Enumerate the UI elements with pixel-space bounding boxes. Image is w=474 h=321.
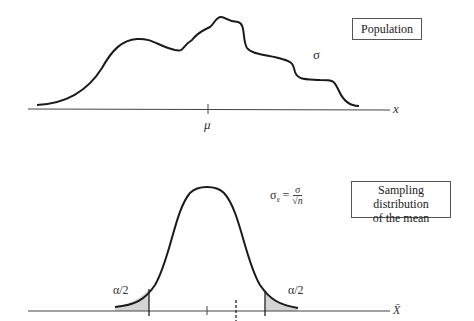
left-tail-label: α/2: [113, 283, 129, 298]
formula-equals: =: [283, 188, 290, 203]
population-sigma-label: σ: [313, 47, 320, 63]
population-label-box: Population: [352, 18, 422, 40]
sampling-label-box: Sampling distribution of the mean: [351, 181, 451, 218]
formula-denominator: √n: [292, 196, 303, 206]
formula-fraction: σ √n: [292, 185, 303, 206]
formula-subscript: x̄: [276, 196, 279, 204]
population-label: Population: [361, 22, 413, 36]
population-axis-label: x: [393, 101, 399, 117]
right-tail-label: α/2: [288, 283, 304, 298]
sampling-axis-label: X̄: [393, 303, 400, 318]
diagram-canvas: [0, 0, 474, 321]
sampling-label-line2: of the mean: [352, 211, 450, 225]
standard-error-formula: σ x̄ = σ √n: [270, 185, 303, 206]
population-curve: [37, 17, 359, 106]
population-x-axis: [28, 109, 390, 110]
population-mean-label: μ: [204, 117, 211, 133]
sampling-label-line1: Sampling distribution: [352, 183, 450, 211]
